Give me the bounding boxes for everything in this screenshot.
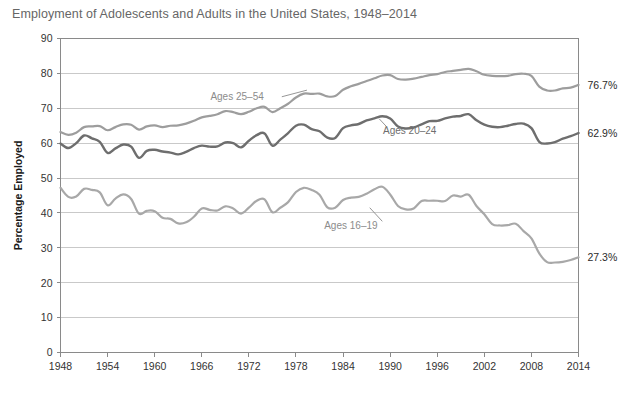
y-axis-tick-labels: 0102030405060708090 [41, 32, 53, 358]
y-axis-tick-label: 0 [47, 346, 53, 358]
x-axis-tick-label: 1972 [237, 360, 261, 372]
x-axis-tick-label: 1978 [284, 360, 308, 372]
series-annotation-label: Ages 16–19 [324, 220, 378, 231]
x-axis-tick-label: 2008 [520, 360, 544, 372]
x-axis-tick-label: 1996 [426, 360, 450, 372]
x-axis-tick-label: 2002 [473, 360, 497, 372]
y-axis-tick-label: 20 [41, 277, 53, 289]
y-axis-title: Percentage Employed [12, 141, 24, 251]
x-axis-tick-label: 1954 [96, 360, 120, 372]
y-axis-tick-label: 40 [41, 207, 53, 219]
x-axis-tick-label: 1990 [378, 360, 402, 372]
x-axis-tick-label: 2014 [567, 360, 591, 372]
data-series-line [61, 187, 579, 263]
x-axis-tick-label: 1984 [331, 360, 355, 372]
y-axis-tick-label: 60 [41, 137, 53, 149]
y-axis-tick-label: 90 [41, 32, 53, 44]
data-series-line [61, 69, 579, 135]
y-axis-tick-label: 70 [41, 102, 53, 114]
series-end-value-label: 76.7% [588, 79, 618, 91]
y-axis-tick-label: 80 [41, 67, 53, 79]
x-axis-tick-labels: 1948195419601966197219781984199019962002… [49, 360, 591, 372]
series-annotation-label: Ages 25–54 [210, 91, 264, 102]
x-axis-tick-label: 1960 [143, 360, 167, 372]
y-axis-tick-label: 30 [41, 242, 53, 254]
x-axis-tick-label: 1948 [49, 360, 73, 372]
y-axis-tick-label: 10 [41, 311, 53, 323]
y-axis-tick-label: 50 [41, 172, 53, 184]
series-paths-group [61, 69, 579, 263]
series-annotation-label: Ages 20–24 [383, 125, 437, 136]
tickmarks-group [57, 39, 579, 357]
y-axis-title-group: Percentage Employed [12, 141, 24, 251]
chart-figure: Employment of Adolescents and Adults in … [0, 0, 639, 398]
series-end-value-label: 62.9% [588, 127, 618, 139]
x-axis-tick-label: 1966 [190, 360, 214, 372]
series-end-labels: 76.7%62.9%27.3% [588, 79, 618, 263]
data-series-line [61, 114, 579, 158]
series-end-value-label: 27.3% [588, 251, 618, 263]
gridlines-group [61, 39, 579, 318]
line-chart: 0102030405060708090 19481954196019661972… [0, 0, 639, 398]
